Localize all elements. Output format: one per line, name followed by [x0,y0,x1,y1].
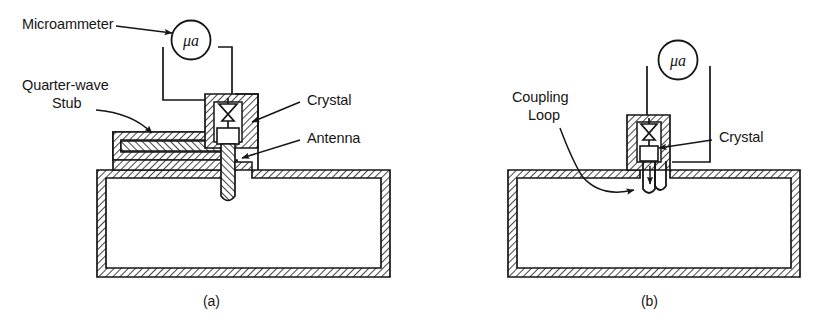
microammeter-symbol-a: μa [172,21,211,60]
label-microammeter: Microammeter [22,17,113,32]
crystal-housing-a [205,94,258,148]
caption-b: (b) [641,294,658,309]
figure-canvas: μa [0,0,829,326]
caption-a: (a) [203,294,220,309]
label-antenna: Antenna [307,131,360,146]
crystal-cartridge-b [640,146,658,161]
label-crystal-b: Crystal [719,130,763,145]
label-crystal-a: Crystal [307,93,351,108]
crystal-housing-b [627,115,670,170]
label-quarter-wave-line2: Stub [52,96,81,111]
waveguide-detector-diagram: μa [0,0,829,326]
meter-label-b: μa [669,52,686,70]
crystal-cartridge-a [217,128,239,144]
label-coupling-line2: Loop [528,108,560,123]
microammeter-symbol-b: μa [659,41,698,80]
meter-label-a: μa [182,32,199,50]
label-quarter-wave-line1: Quarter-wave [22,78,109,93]
label-coupling-line1: Coupling [512,90,568,105]
